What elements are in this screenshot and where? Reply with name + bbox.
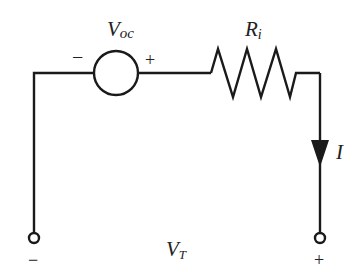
resistor-label: Ri (244, 17, 262, 42)
terminal-positive (315, 233, 325, 243)
terminal-voltage-label: VT (166, 237, 187, 262)
terminal-positive-sign: + (314, 250, 324, 270)
source-positive-sign: + (145, 50, 155, 70)
source-negative-sign: − (72, 46, 83, 68)
terminal-negative (29, 233, 39, 243)
current-label: I (335, 140, 344, 164)
source-label: Voc (107, 17, 134, 41)
current-arrow-icon (311, 140, 329, 167)
wire-left (34, 73, 94, 232)
terminal-negative-sign: − (28, 250, 38, 270)
circuit-diagram: Voc − + Ri I VT − + (0, 0, 361, 280)
voltage-source-icon (94, 51, 138, 95)
resistor-icon (211, 49, 320, 97)
